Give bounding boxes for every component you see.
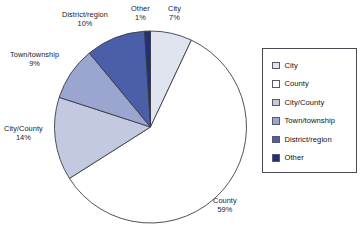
legend-item-other[interactable]: Other — [272, 149, 356, 168]
slice-label-name: District/region — [62, 10, 108, 19]
slice-label-name: County — [213, 196, 237, 205]
pie-slices-group — [54, 31, 246, 223]
legend-item-city-county[interactable]: City/County — [272, 93, 356, 112]
slice-label-district-region: District/region10% — [62, 10, 108, 28]
legend-swatch-icon — [272, 117, 280, 125]
slice-label-name: City/County — [4, 124, 43, 133]
slice-label-name: Town/township — [10, 50, 59, 59]
slice-label-name: City — [168, 4, 181, 13]
legend-item-label: Town/township — [285, 116, 335, 125]
chart-legend: CityCountyCity/CountyTown/townshipDistri… — [262, 48, 357, 173]
slice-label-value: 9% — [10, 59, 59, 68]
slice-label-value: 10% — [62, 19, 108, 28]
legend-swatch-icon — [272, 136, 280, 144]
slice-label-city: City7% — [168, 4, 181, 22]
legend-swatch-icon — [272, 99, 280, 107]
slice-label-city-county: City/County14% — [4, 124, 43, 142]
pie-chart-figure: City7%County59%City/County14%Town/townsh… — [0, 0, 361, 238]
legend-item-town-township[interactable]: Town/township — [272, 112, 356, 131]
legend-item-label: County — [285, 79, 309, 88]
slice-label-other: Other1% — [131, 4, 150, 22]
slice-label-county: County59% — [213, 196, 237, 214]
legend-item-city[interactable]: City — [272, 56, 356, 75]
legend-item-county[interactable]: County — [272, 75, 356, 94]
slice-label-value: 1% — [131, 13, 150, 22]
slice-label-value: 7% — [168, 13, 181, 22]
slice-label-value: 59% — [213, 205, 237, 214]
legend-item-label: City/County — [285, 98, 325, 107]
legend-item-district-region[interactable]: District/region — [272, 130, 356, 149]
legend-item-label: City — [285, 61, 298, 70]
slice-label-name: Other — [131, 4, 150, 13]
legend-item-label: Other — [285, 153, 304, 162]
slice-label-town-township: Town/township9% — [10, 50, 59, 68]
legend-swatch-icon — [272, 80, 280, 88]
legend-swatch-icon — [272, 62, 280, 70]
legend-swatch-icon — [272, 154, 280, 162]
slice-label-value: 14% — [4, 133, 43, 142]
legend-item-label: District/region — [285, 135, 332, 144]
